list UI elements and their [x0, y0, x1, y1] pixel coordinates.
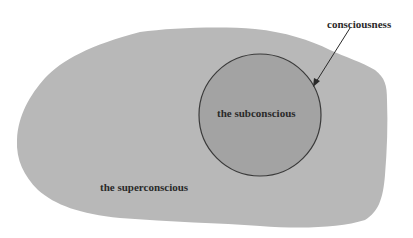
mind-diagram: consciousness the subconscious the super…	[0, 0, 413, 238]
consciousness-label: consciousness	[327, 18, 392, 30]
superconscious-label: the superconscious	[100, 181, 189, 193]
subconscious-label: the subconscious	[217, 107, 296, 119]
